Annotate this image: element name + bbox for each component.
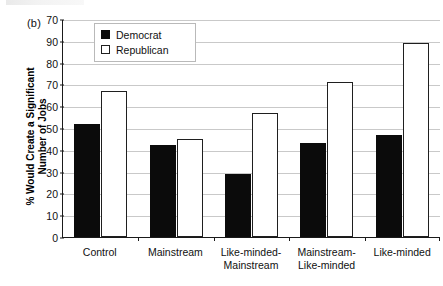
y-axis-tick-label: 0 <box>28 232 58 244</box>
filled-square-icon <box>101 30 110 39</box>
x-axis-tick-mark <box>214 237 215 241</box>
y-axis-tick-mark <box>60 238 64 239</box>
bar-republican[interactable] <box>252 113 278 237</box>
x-axis-category-label: Like-minded <box>364 246 440 271</box>
x-axis-category-label: Control <box>62 246 138 271</box>
chart-legend: Democrat Republican <box>94 23 196 62</box>
bar-democrat[interactable] <box>150 145 176 237</box>
bar-republican[interactable] <box>403 43 429 237</box>
y-axis-tick-label: 60 <box>28 101 58 113</box>
y-axis-tick-label: 20 <box>28 188 58 200</box>
bar-democrat[interactable] <box>74 124 100 237</box>
legend-item-democrat: Democrat <box>101 27 189 42</box>
y-axis-tick-label: 10 <box>28 210 58 222</box>
bar-group <box>214 20 289 237</box>
outlined-square-icon <box>101 45 110 54</box>
y-axis-tick-label: 50 <box>28 123 58 135</box>
bar-group <box>289 20 364 237</box>
legend-item-republican: Republican <box>101 42 189 57</box>
bar-democrat[interactable] <box>300 143 326 237</box>
x-axis-tick-mark <box>138 237 139 241</box>
x-axis-tick-mark <box>439 237 440 241</box>
x-axis-category-label: Mainstream <box>138 246 214 271</box>
y-axis-tick-label: 30 <box>28 167 58 179</box>
y-axis-tick-label: 90 <box>28 36 58 48</box>
y-axis-tick-label: 80 <box>28 58 58 70</box>
x-axis-labels: ControlMainstreamLike-minded- Mainstream… <box>62 246 440 271</box>
bar-republican[interactable] <box>101 91 127 237</box>
x-axis-category-label: Like-minded- Mainstream <box>213 246 289 271</box>
x-axis-tick-mark <box>365 237 366 241</box>
legend-label-democrat: Democrat <box>116 29 162 41</box>
x-axis-tick-mark <box>289 237 290 241</box>
scan-artifact-strip <box>6 0 84 5</box>
y-axis-tick-label: 70 <box>28 14 58 26</box>
x-axis-category-label: Mainstream- Like-minded <box>289 246 365 271</box>
bar-chart-figure: (b) % Would Create a Significant Number … <box>0 0 443 286</box>
bar-republican[interactable] <box>327 82 353 237</box>
y-axis-tick-label: 40 <box>28 145 58 157</box>
legend-label-republican: Republican <box>116 44 169 56</box>
bar-republican[interactable] <box>177 139 203 237</box>
y-axis-tick-label: 70 <box>28 79 58 91</box>
bar-group <box>365 20 440 237</box>
bar-democrat[interactable] <box>376 135 402 237</box>
bar-democrat[interactable] <box>225 174 251 237</box>
